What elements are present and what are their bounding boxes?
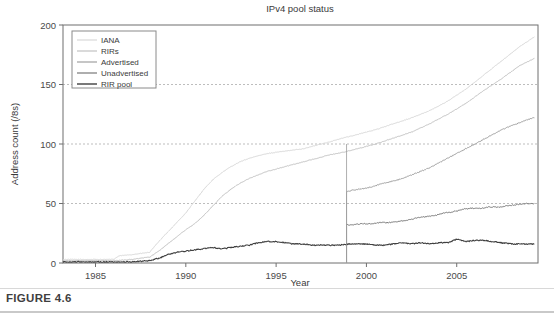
x-tick-label: 2005 [446,270,467,281]
y-tick-label: 100 [40,139,56,150]
legend-label-unadvertised: Unadvertised [101,69,148,78]
chart-title: IPv4 pool status [266,3,334,14]
x-tick-label: 2000 [356,270,377,281]
x-tick-label: 1985 [85,270,106,281]
series-line-unadvertised [347,203,535,225]
x-axis-label: Year [290,277,309,288]
chart-legend: IANARIRsAdvertisedUnadvertisedRIR pool [72,31,156,89]
x-tick-label: 1995 [266,270,287,281]
y-tick-label: 150 [40,79,56,90]
series-line-advertised [347,118,535,192]
y-tick-label: 200 [40,20,56,31]
x-axis-ticks: 19851990199520002005 [85,263,467,281]
y-tick-label: 0 [51,258,56,269]
figure-caption: FIGURE 4.6 [6,292,72,304]
y-axis-label: Address count (/8s) [9,103,20,185]
x-tick-label: 1990 [175,270,196,281]
series-line-rirs [63,58,534,261]
y-tick-label: 50 [45,198,56,209]
y-axis-ticks: 050100150200 [40,20,63,269]
legend-label-iana: IANA [101,36,120,45]
figure-container: IPv4 pool status 050100150200 1985199019… [0,0,554,323]
legend-label-advertised: Advertised [101,58,139,67]
caption-rule-top [0,288,554,289]
legend-label-rirs: RIRs [101,47,119,56]
caption-rule-bottom [0,311,554,313]
legend-label-rir-pool: RIR pool [101,80,132,89]
ipv4-pool-status-chart: IPv4 pool status 050100150200 1985199019… [0,0,554,290]
